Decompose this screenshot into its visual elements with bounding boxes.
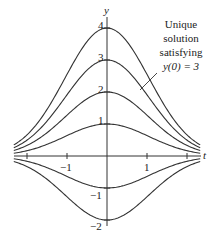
t-axis-label: t (203, 150, 206, 161)
annotation-unique-solution: Unique solution satisfying y(0) = 3 (150, 17, 212, 73)
y-tick-label-neg2: −2 (90, 221, 102, 232)
annotation-line-1: Unique (150, 17, 212, 31)
t-tick-label-neg1: −1 (60, 162, 72, 173)
t-tick-label-1: 1 (144, 162, 150, 173)
y-tick-label-1: 1 (98, 115, 104, 126)
annotation-line-4: y(0) = 3 (150, 59, 212, 73)
y-tick-label-neg1: −1 (90, 190, 102, 201)
y-tick-label-4: 4 (98, 20, 104, 31)
y-tick-label-2: 2 (98, 84, 104, 95)
annotation-line-2: solution (150, 31, 212, 45)
y-axis-label: y (104, 5, 109, 16)
annotation-line-3: satisfying (150, 45, 212, 59)
y-tick-label-3: 3 (98, 52, 104, 63)
solution-curves-figure: y t 4 3 2 1 −1 −2 −1 1 Unique solution s… (0, 0, 216, 244)
